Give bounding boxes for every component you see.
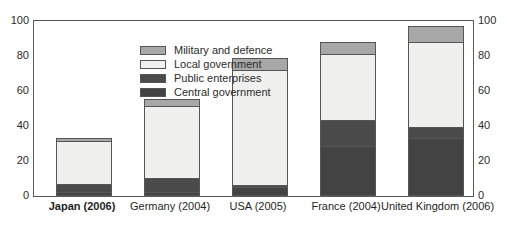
segment-central-government (56, 192, 112, 196)
y-axis-right-tick-60: 60 (478, 85, 504, 96)
segment-military-and-defence (408, 26, 464, 42)
legend: Military and defence Local government Pu… (140, 44, 330, 100)
stacked-bar-chart: 100 80 60 40 20 0 100 80 60 40 20 0 (0, 0, 507, 227)
y-axis-left-tick-40: 40 (3, 120, 29, 131)
y-axis-left-tick-20: 20 (3, 155, 29, 166)
y-axis-right: 100 80 60 40 20 0 (478, 20, 504, 197)
legend-swatch-icon (140, 60, 166, 69)
legend-label: Military and defence (174, 45, 272, 56)
x-axis-label-united-kingdom: United Kingdom (2006) (368, 200, 507, 213)
legend-item-central-government[interactable]: Central government (140, 86, 330, 99)
segment-central-government (408, 138, 464, 196)
segment-public-enterprises (56, 184, 112, 193)
legend-label: Central government (174, 87, 271, 98)
y-axis-left-tick-60: 60 (3, 85, 29, 96)
legend-item-military-and-defence[interactable]: Military and defence (140, 44, 330, 57)
segment-central-government (320, 146, 376, 196)
legend-swatch-icon (140, 46, 166, 55)
legend-swatch-icon (140, 88, 166, 97)
y-axis-right-tick-40: 40 (478, 120, 504, 131)
y-axis-left-tick-100: 100 (3, 15, 29, 26)
plot-area: Military and defence Local government Pu… (33, 20, 474, 197)
y-axis-right-tick-80: 80 (478, 50, 504, 61)
segment-public-enterprises (144, 178, 200, 192)
segment-central-government (232, 187, 288, 196)
segment-central-government (144, 192, 200, 196)
segment-public-enterprises (408, 127, 464, 138)
segment-public-enterprises (320, 120, 376, 147)
y-axis-left: 100 80 60 40 20 0 (3, 20, 29, 197)
segment-public-enterprises (232, 185, 288, 187)
y-axis-right-tick-20: 20 (478, 155, 504, 166)
legend-item-local-government[interactable]: Local government (140, 58, 330, 71)
segment-military-and-defence (56, 138, 112, 142)
y-axis-right-tick-100: 100 (478, 15, 504, 26)
y-axis-left-tick-80: 80 (3, 50, 29, 61)
segment-local-government (408, 42, 464, 127)
legend-item-public-enterprises[interactable]: Public enterprises (140, 72, 330, 85)
segment-local-government (144, 106, 200, 179)
segment-local-government (56, 141, 112, 183)
legend-label: Local government (174, 59, 261, 70)
legend-label: Public enterprises (174, 73, 261, 84)
legend-swatch-icon (140, 74, 166, 83)
